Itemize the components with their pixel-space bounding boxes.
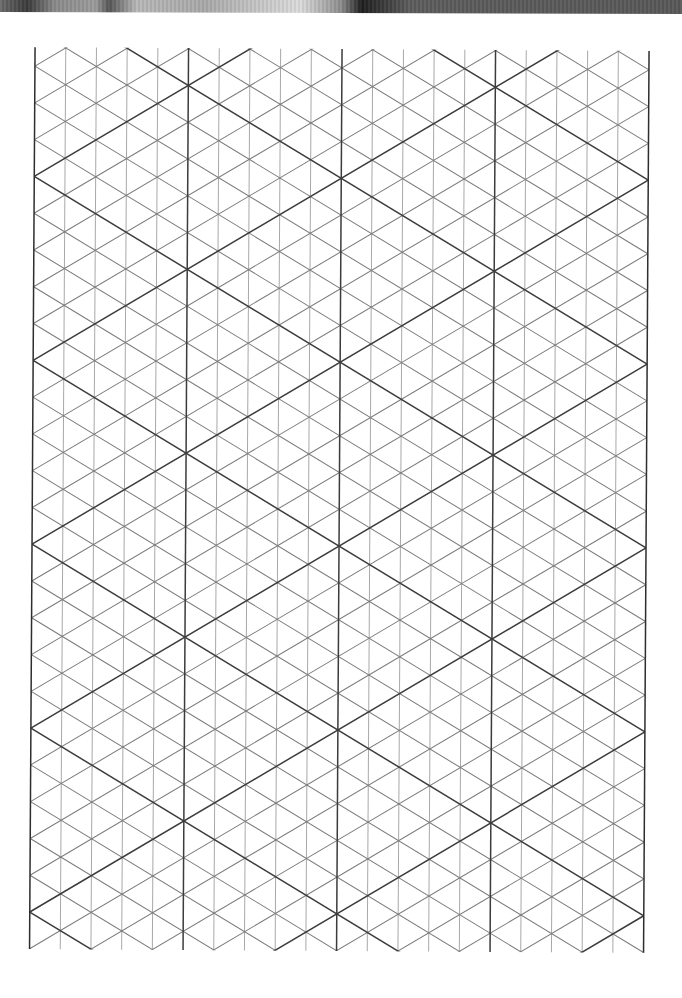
isometric-grid: [0, 0, 682, 998]
minor-vertical-line: [582, 51, 588, 953]
grid-edge-line: [644, 51, 650, 953]
major-vertical-line: [337, 49, 343, 951]
minor-vertical-line: [459, 50, 465, 952]
grid-edge-line: [30, 47, 36, 949]
minor-diagonal-up: [35, 0, 651, 33]
minor-diagonal-down: [27, 986, 643, 998]
minor-vertical-line: [244, 48, 250, 950]
minor-vertical-line: [91, 48, 97, 950]
minor-vertical-line: [613, 51, 619, 953]
minor-diagonal-down: [27, 949, 643, 998]
minor-vertical-line: [60, 47, 66, 949]
isometric-grid-sheet: [0, 0, 682, 998]
major-vertical-line: [490, 50, 496, 952]
minor-vertical-line: [551, 50, 557, 952]
major-vertical-line: [183, 48, 189, 950]
minor-diagonal-up: [27, 949, 643, 998]
minor-vertical-line: [214, 48, 220, 950]
minor-diagonal-up: [27, 986, 643, 998]
minor-vertical-line: [429, 50, 435, 952]
minor-vertical-line: [152, 48, 158, 950]
minor-vertical-line: [122, 48, 128, 950]
minor-vertical-line: [275, 49, 281, 951]
minor-vertical-line: [398, 49, 404, 951]
minor-diagonal-down: [35, 0, 651, 33]
minor-vertical-line: [367, 49, 373, 951]
minor-vertical-line: [306, 49, 312, 951]
minor-vertical-line: [521, 50, 527, 952]
